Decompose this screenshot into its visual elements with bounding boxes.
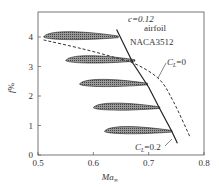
annotation-cl02: CL=0.2 bbox=[135, 142, 161, 153]
x-axis-label: Ma∞ bbox=[101, 172, 119, 183]
y-tick-label: 4 bbox=[29, 32, 34, 42]
y-tick-label: 2 bbox=[29, 91, 34, 101]
airfoil-shape bbox=[104, 127, 172, 134]
y-axis-label: f% bbox=[6, 82, 16, 93]
x-tick-label: 0.5 bbox=[32, 158, 44, 168]
airfoil-shape bbox=[80, 79, 148, 86]
x-tick-label: 0.6 bbox=[88, 158, 100, 168]
y-tick-label: 0 bbox=[29, 150, 34, 160]
y-tick-label: 1 bbox=[29, 121, 34, 131]
x-tick-label: 0.7 bbox=[143, 158, 155, 168]
x-tick-label: 0.8 bbox=[198, 158, 210, 168]
annotation-cl0: CL=0 bbox=[167, 57, 186, 68]
airfoil-shapes bbox=[44, 32, 172, 134]
airfoil-shape bbox=[93, 103, 159, 110]
airfoil-shape bbox=[44, 32, 119, 40]
axis-ticks: 0.50.60.70.801234 bbox=[29, 32, 211, 168]
y-tick-label: 3 bbox=[29, 62, 34, 72]
annotation-naca: NACA3512 bbox=[130, 37, 174, 47]
chart: 0.50.60.70.801234 c=0.12 airfoil NACA351… bbox=[0, 0, 219, 187]
cl0-curve bbox=[44, 40, 191, 137]
annotation-airfoil: airfoil bbox=[144, 23, 166, 33]
airfoil-shape bbox=[66, 56, 135, 63]
